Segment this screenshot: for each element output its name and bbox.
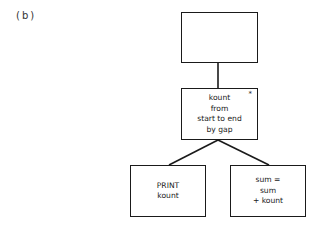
sum-node-box: sum = sum + kount: [230, 165, 306, 217]
print-line-2: kount: [157, 191, 178, 202]
sum-line-1: sum =: [256, 175, 281, 186]
print-node-box: PRINT kount: [130, 165, 206, 217]
loop-line-1: kount: [209, 93, 230, 104]
print-line-1: PRINT: [157, 181, 179, 192]
loop-node-box: * kount from start to end by gap: [181, 88, 258, 140]
sum-line-2: sum: [260, 186, 276, 197]
loop-to-right-line: [218, 140, 269, 165]
iteration-marker: *: [249, 91, 253, 98]
sum-line-3: + kount: [253, 196, 283, 207]
loop-line-2: from: [211, 104, 229, 115]
loop-to-left-line: [169, 140, 218, 165]
loop-line-4: by gap: [206, 125, 232, 136]
root-node-box: [181, 12, 258, 63]
loop-line-3: start to end: [197, 114, 241, 125]
